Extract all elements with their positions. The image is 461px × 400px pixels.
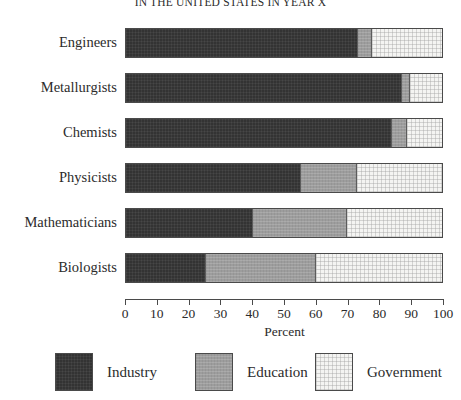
x-axis-tick (284, 299, 285, 305)
legend-swatch-education (195, 353, 233, 391)
bar-segment-education (391, 119, 407, 147)
bar-segment-industry (126, 254, 205, 282)
category-label: Metallurgists (0, 79, 117, 96)
stacked-bar-chart: IN THE UNITED STATES IN YEAR X Engineers… (0, 0, 461, 400)
bar-segment-government (372, 29, 442, 57)
legend-swatch-industry (55, 353, 93, 391)
category-label: Mathematicians (0, 214, 117, 231)
bar-segment-education (205, 254, 316, 282)
x-axis-tick (348, 299, 349, 305)
category-label: Chemists (0, 124, 117, 141)
bar-segment-education (300, 164, 357, 192)
category-axis-labels: EngineersMetallurgistsChemistsPhysicists… (0, 26, 117, 298)
bar-segment-education (401, 74, 410, 102)
legend-label: Education (247, 364, 308, 381)
category-label: Biologists (0, 259, 117, 276)
bar-segment-industry (126, 164, 300, 192)
bar-segment-government (316, 254, 442, 282)
bar-row (125, 253, 443, 283)
bar-row (125, 118, 443, 148)
chart-legend: IndustryEducationGovernment (0, 352, 461, 396)
legend-item: Education (195, 352, 308, 392)
bar-row (125, 208, 443, 238)
legend-swatch-government (315, 353, 353, 391)
legend-label: Government (367, 364, 442, 381)
bar-segment-industry (126, 209, 252, 237)
legend-item: Industry (55, 352, 157, 392)
bar-segment-industry (126, 29, 357, 57)
category-label: Physicists (0, 169, 117, 186)
x-axis-tick (125, 299, 126, 305)
category-label: Engineers (0, 34, 117, 51)
bar-segment-education (252, 209, 347, 237)
bar-row (125, 163, 443, 193)
bar-segment-government (407, 119, 442, 147)
legend-item: Government (315, 352, 442, 392)
x-axis-tick (252, 299, 253, 305)
bar-row (125, 73, 443, 103)
plot-area (125, 26, 443, 298)
x-axis-tick (443, 299, 444, 305)
bar-segment-education (357, 29, 373, 57)
x-axis-title: Percent (125, 324, 444, 340)
legend-label: Industry (107, 364, 157, 381)
x-axis-tick (157, 299, 158, 305)
x-axis-tick (316, 299, 317, 305)
chart-title: IN THE UNITED STATES IN YEAR X (0, 0, 461, 8)
x-axis-tick (220, 299, 221, 305)
x-axis-tick (189, 299, 190, 305)
x-axis-tick (411, 299, 412, 305)
bar-segment-government (410, 74, 442, 102)
bar-segment-industry (126, 119, 391, 147)
x-axis-tick-label: 100 (423, 306, 461, 322)
x-axis-tick (379, 299, 380, 305)
bar-row (125, 28, 443, 58)
bar-segment-government (357, 164, 442, 192)
bar-segment-government (347, 209, 442, 237)
bar-segment-industry (126, 74, 401, 102)
